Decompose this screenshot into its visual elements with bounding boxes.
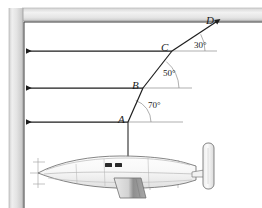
point-label-D: D — [206, 15, 214, 26]
angle-label-70: 70° — [148, 101, 161, 110]
aircraft-side-view — [30, 143, 214, 198]
vertical-stabilizer — [203, 143, 214, 189]
ventral-pod — [114, 178, 146, 198]
diagram-svg — [0, 0, 262, 208]
horizontal-rays — [26, 51, 172, 122]
point-label-C: C — [161, 42, 168, 53]
angle-reference-lines — [128, 51, 217, 122]
point-label-A: A — [118, 114, 125, 125]
angle-label-50: 50° — [163, 69, 176, 78]
ceiling — [22, 8, 262, 21]
point-label-B: B — [132, 80, 139, 91]
wall — [9, 8, 23, 208]
segment-A-B — [128, 88, 143, 122]
angle-label-30: 30° — [194, 41, 207, 50]
figure-canvas: A B C D 70° 50° 30° — [0, 0, 262, 208]
